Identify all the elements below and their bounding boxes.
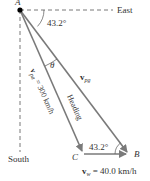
v-pa-label: vpa = 300 km/h: [27, 67, 56, 116]
top-angle-label: 43.2°: [47, 18, 67, 28]
point-a-label: A: [14, 0, 21, 7]
v-w-label: vw = 40.0 km/h: [82, 166, 137, 177]
point-b-label: B: [134, 149, 140, 159]
east-label: East: [117, 5, 133, 15]
velocity-vector-diagram: A East South 43.2° θ vpg vpa = 300 km/h …: [0, 0, 150, 181]
theta-label: θ: [50, 60, 55, 70]
angle-arc-bottom: [115, 143, 121, 154]
south-label: South: [8, 154, 30, 164]
angle-arc-top: [38, 10, 45, 26]
bottom-angle-label: 43.2°: [89, 142, 109, 152]
point-c-label: C: [72, 152, 79, 162]
point-a-dot: [17, 7, 22, 12]
v-pg-label: vpg: [80, 72, 91, 83]
